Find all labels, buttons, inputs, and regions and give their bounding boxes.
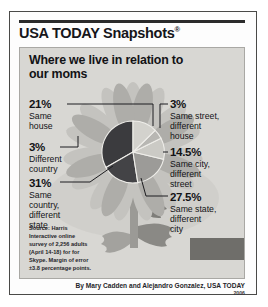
page-title: Where we live in relation to our moms	[29, 54, 189, 82]
callout-same-house: 21% Samehouse	[29, 98, 89, 131]
pie-chart	[102, 121, 164, 183]
callout-same-state-desc: Same state,differentcity	[170, 204, 242, 234]
callout-same-street: 3% Same street,differenthouse	[170, 98, 242, 141]
callout-same-city-desc: Same city,differentstreet	[170, 159, 242, 189]
callout-same-house-desc: Samehouse	[29, 111, 89, 131]
leaf-right-lower	[138, 223, 172, 246]
callout-same-state-pct: 27.5%	[170, 191, 242, 203]
byline-credit: By Mary Cadden and Alejandro Gonzalez, U…	[19, 282, 245, 290]
callout-same-street-pct: 3%	[170, 98, 242, 110]
masthead-title: USA TODAY Snapshots®	[19, 26, 245, 42]
callout-same-country-desc: Samecountry,differentstate	[29, 190, 91, 230]
registered-mark-icon: ®	[174, 25, 179, 34]
chart-panel: Where we live in relation to our moms	[19, 47, 245, 279]
callout-diff-country: 3% Differentcountry	[29, 141, 89, 174]
callout-same-street-desc: Same street,differenthouse	[170, 111, 242, 141]
byline-year: 2006	[19, 291, 245, 296]
leaf-left	[101, 231, 130, 252]
masthead-rule	[19, 20, 245, 23]
masthead: USA TODAY Snapshots®	[19, 20, 245, 41]
callout-same-country: 31% Samecountry,differentstate	[29, 177, 91, 230]
callout-diff-country-desc: Differentcountry	[29, 154, 89, 174]
byline: By Mary Cadden and Alejandro Gonzalez, U…	[19, 282, 245, 297]
snapshot-clipping: USA TODAY Snapshots® Where we live in re…	[9, 11, 257, 295]
foreground-band	[190, 238, 245, 260]
callout-diff-country-pct: 3%	[29, 141, 89, 153]
callout-same-city: 14.5% Same city,differentstreet	[170, 146, 242, 189]
callout-same-state: 27.5% Same state,differentcity	[170, 191, 242, 234]
callout-same-country-pct: 31%	[29, 177, 91, 189]
callout-same-city-pct: 14.5%	[170, 146, 242, 158]
callout-same-house-pct: 21%	[29, 98, 89, 110]
masthead-brand: USA TODAY Snapshots	[19, 25, 174, 41]
source-note: Source: Harris Interactive online survey…	[29, 225, 93, 273]
